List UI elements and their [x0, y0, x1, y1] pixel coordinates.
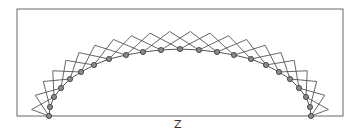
node-marker [46, 113, 51, 118]
arc-nodes [46, 46, 313, 118]
node-marker [158, 47, 163, 52]
node-marker [51, 94, 56, 99]
truss-member [143, 32, 199, 52]
node-marker [78, 69, 83, 74]
node-marker [214, 49, 219, 54]
node-marker [303, 94, 308, 99]
node-marker [248, 56, 253, 61]
node-marker [276, 69, 281, 74]
node-marker [177, 46, 182, 51]
node-marker [263, 62, 268, 67]
arc-curve [49, 49, 311, 116]
node-marker [91, 62, 96, 67]
node-marker [106, 56, 111, 61]
node-marker [296, 85, 301, 90]
node-marker [47, 104, 52, 109]
node-marker [67, 76, 72, 81]
arch-diagram [0, 0, 359, 135]
node-marker [140, 49, 145, 54]
truss-member [161, 32, 217, 52]
axis-label-z: Z [174, 118, 182, 131]
node-marker [231, 52, 236, 57]
node-marker [287, 76, 292, 81]
node-marker [307, 104, 312, 109]
node-marker [308, 113, 313, 118]
node-marker [196, 47, 201, 52]
zigzag-truss [32, 32, 329, 116]
node-marker [123, 52, 128, 57]
node-marker [58, 85, 63, 90]
